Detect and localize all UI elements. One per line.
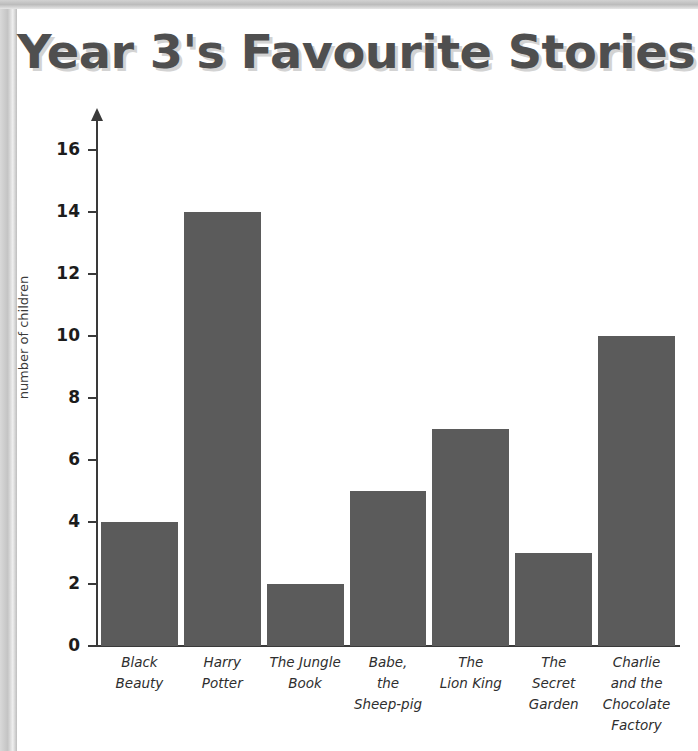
y-axis-tick [88, 273, 98, 275]
x-axis-tick-label-line: Chocolate [585, 694, 688, 715]
y-axis-tick-label: 2 [34, 575, 80, 592]
bar [184, 212, 261, 646]
chart-page: Year 3's Favourite Stories number of chi… [0, 0, 698, 751]
y-axis-label: number of children [16, 253, 31, 423]
x-axis-tick-label: Charlieand theChocolateFactory [585, 652, 688, 736]
y-axis-tick-label: 4 [34, 513, 80, 530]
y-axis-tick [88, 645, 98, 647]
bar [598, 336, 675, 646]
y-axis-tick-label: 12 [34, 265, 80, 282]
y-axis-tick [88, 459, 98, 461]
y-axis-tick-label: 14 [34, 203, 80, 220]
bar [515, 553, 592, 646]
y-axis-tick [88, 211, 98, 213]
bar [432, 429, 509, 646]
y-axis-tick [88, 521, 98, 523]
y-axis-tick-label: 6 [34, 451, 80, 468]
y-axis-tick [88, 583, 98, 585]
y-axis-tick [88, 149, 98, 151]
y-axis-tick [88, 335, 98, 337]
x-axis-tick-label-line: Sheep-pig [337, 694, 440, 715]
bar [267, 584, 344, 646]
x-axis-tick-label-line: Charlie [585, 652, 688, 673]
y-axis-tick [88, 397, 98, 399]
y-axis-tick-label: 16 [34, 141, 80, 158]
y-axis-arrow-icon [91, 108, 103, 121]
y-axis-line [96, 118, 98, 647]
y-axis-tick-label: 8 [34, 389, 80, 406]
x-axis-tick-label-line: Factory [585, 715, 688, 736]
y-axis-tick-label: 0 [34, 637, 80, 654]
bar-chart: number of children 0246810121416 BlackBe… [0, 0, 698, 751]
bar [101, 522, 178, 646]
bar [350, 491, 427, 646]
x-axis-tick-label-line: and the [585, 673, 688, 694]
y-axis-tick-label: 10 [34, 327, 80, 344]
